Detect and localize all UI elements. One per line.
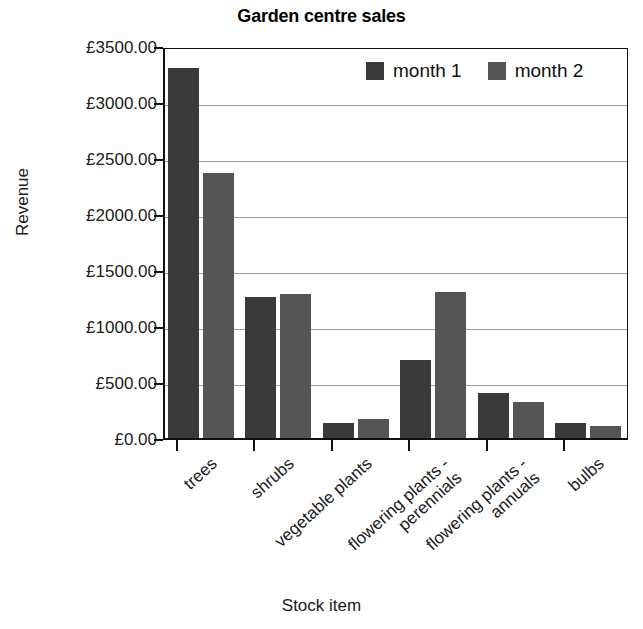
x-axis-tick-mark [563,440,565,451]
y-axis-tick-label: £1000.00 [7,318,157,338]
y-axis-tick-label: £0.00 [7,430,157,450]
bar-m2 [513,402,544,438]
bar-m1 [245,297,276,438]
chart-root: Garden centre sales Revenue £0.00£500.00… [0,0,643,629]
gridline [165,217,627,218]
x-axis-tick-mark [331,440,333,451]
y-axis-tick-label: £3000.00 [7,94,157,114]
plot-area [163,48,628,440]
x-axis-label-line: shrubs [247,454,298,502]
bar-m1 [400,360,431,438]
x-axis-tick-mark [176,440,178,451]
y-axis-tick-mark [154,383,163,385]
chart-title: Garden centre sales [0,6,643,27]
y-axis-tick-mark [154,103,163,105]
y-axis-tick-mark [154,47,163,49]
bar-m2 [280,294,311,438]
x-axis-label-line: bulbs [565,454,608,495]
gridline [165,105,627,106]
legend-label: month 1 [393,60,462,82]
x-axis-category-label: trees [180,454,221,493]
chart-legend: month 1month 2 [366,60,583,82]
legend-label: month 2 [515,60,584,82]
bar-m1 [478,393,509,438]
y-axis-tick-mark [154,439,163,441]
gridline [165,273,627,274]
gridline [165,161,627,162]
legend-entry[interactable]: month 2 [488,60,584,82]
y-axis-tick-label: £500.00 [7,374,157,394]
gridline [165,385,627,386]
gridline [165,329,627,330]
bar-m2 [435,292,466,438]
legend-swatch-icon [488,62,506,80]
bar-m2 [590,426,621,438]
bar-m1 [168,68,199,438]
bar-m1 [555,423,586,438]
y-axis-tick-mark [154,327,163,329]
x-axis-label-line: trees [180,454,221,493]
y-axis-tick-mark [154,159,163,161]
y-axis-tick-label: £2500.00 [7,150,157,170]
x-axis-tick-mark [253,440,255,451]
legend-swatch-icon [366,62,384,80]
x-axis-category-label: bulbs [565,454,608,495]
x-axis-tick-mark [486,440,488,451]
bar-m2 [358,419,389,438]
y-axis-tick-label: £1500.00 [7,262,157,282]
x-axis-category-label: shrubs [247,454,298,502]
bar-m1 [323,423,354,438]
y-axis-tick-label: £3500.00 [7,38,157,58]
x-axis-title: Stock item [0,596,643,616]
y-axis-tick-mark [154,215,163,217]
y-axis-tick-mark [154,271,163,273]
bar-m2 [203,173,234,438]
legend-entry[interactable]: month 1 [366,60,462,82]
x-axis-tick-mark [408,440,410,451]
y-axis-tick-label: £2000.00 [7,206,157,226]
